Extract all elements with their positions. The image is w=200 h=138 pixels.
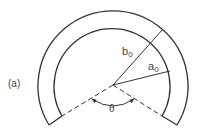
outer-radius-label: b0	[122, 45, 133, 59]
inner-radius-line	[113, 71, 170, 85]
right-dashed-line	[113, 85, 162, 116]
inner-radius-label: a0	[148, 60, 159, 74]
outer-radius-line	[113, 29, 163, 85]
panel-label: (a)	[8, 78, 20, 89]
annulus-sector-diagram: (a) b0 a0 θ	[0, 0, 200, 138]
left-dashed-line	[62, 85, 113, 116]
right-end-cap	[162, 116, 177, 125]
left-end-cap	[49, 116, 62, 125]
angle-label: θ	[109, 103, 115, 114]
